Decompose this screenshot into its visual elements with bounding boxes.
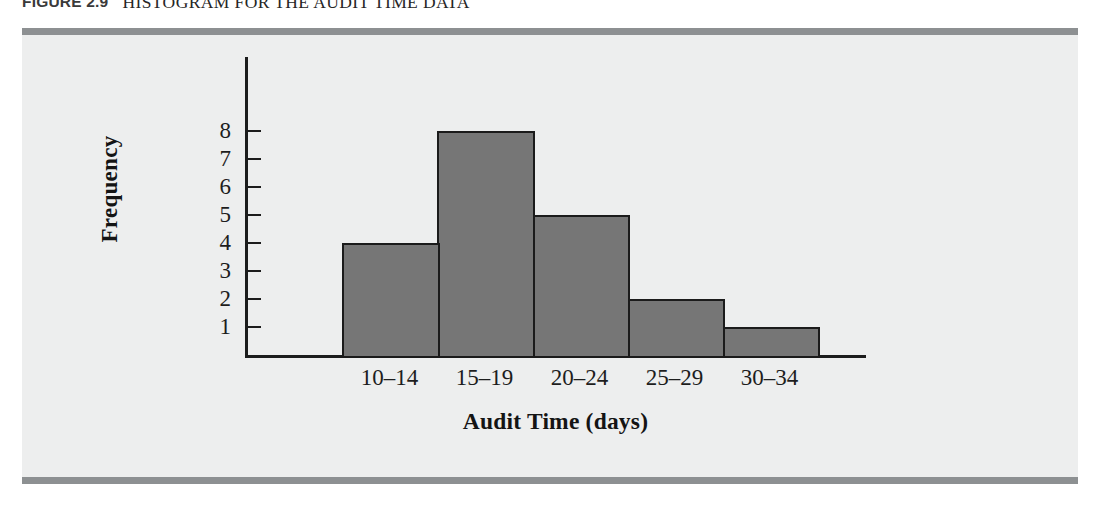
figure-panel: Frequency 12345678 10–1415–1920–2425–293… xyxy=(22,28,1078,484)
y-tick-label: 1 xyxy=(205,315,231,338)
y-tick-label: 7 xyxy=(205,147,231,170)
histogram-bar xyxy=(627,299,725,358)
x-tick-label: 20–24 xyxy=(532,366,627,389)
histogram-plot-area: Frequency 12345678 10–1415–1920–2425–293… xyxy=(22,28,1078,484)
figure-caption: FIGURE 2.9 HISTOGRAM FOR THE AUDIT TIME … xyxy=(22,0,470,13)
y-tick-mark xyxy=(248,186,261,188)
histogram-bar xyxy=(722,327,820,358)
x-tick-label: 25–29 xyxy=(627,366,722,389)
y-tick-mark xyxy=(248,326,261,328)
y-tick-mark xyxy=(248,242,261,244)
y-tick-label: 5 xyxy=(205,203,231,226)
figure-title: HISTOGRAM FOR THE AUDIT TIME DATA xyxy=(122,0,469,13)
histogram-bar xyxy=(342,243,440,358)
y-axis-line xyxy=(245,57,248,358)
y-tick-label: 2 xyxy=(205,287,231,310)
x-tick-label: 10–14 xyxy=(342,366,437,389)
y-tick-mark xyxy=(248,214,261,216)
y-tick-mark xyxy=(248,158,261,160)
figure-number: FIGURE 2.9 xyxy=(22,0,108,11)
y-tick-label: 3 xyxy=(205,259,231,282)
y-tick-label: 4 xyxy=(205,231,231,254)
y-tick-mark xyxy=(248,130,261,132)
histogram-bar xyxy=(437,131,535,358)
y-axis-title: Frequency xyxy=(97,89,123,289)
x-tick-label: 15–19 xyxy=(437,366,532,389)
y-tick-mark xyxy=(248,298,261,300)
x-axis-title: Audit Time (days) xyxy=(245,408,866,435)
x-tick-label: 30–34 xyxy=(722,366,817,389)
y-tick-mark xyxy=(248,270,261,272)
y-tick-label: 8 xyxy=(205,119,231,142)
y-tick-label: 6 xyxy=(205,175,231,198)
histogram-bar xyxy=(532,215,630,358)
